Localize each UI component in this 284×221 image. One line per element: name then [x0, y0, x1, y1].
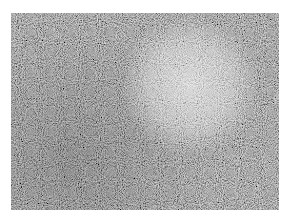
noise-texture [11, 13, 279, 210]
micrograph-image [11, 13, 279, 210]
bright-region [11, 13, 279, 210]
